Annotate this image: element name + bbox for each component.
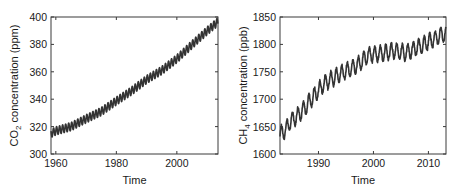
ch4-y-ticks: 160016501700175018001850 — [253, 11, 446, 160]
y-tick-label: 1600 — [253, 148, 277, 160]
x-tick-label: 2000 — [362, 157, 386, 169]
y-tick-label: 340 — [29, 93, 47, 105]
y-tick-label: 400 — [29, 11, 47, 23]
ch4-series-line — [280, 27, 446, 140]
y-tick-label: 360 — [29, 66, 47, 78]
x-tick-label: 1980 — [105, 157, 129, 169]
y-tick-label: 1800 — [253, 38, 277, 50]
ch4-x-axis-label: Time — [351, 174, 375, 186]
co2-x-axis-label: Time — [122, 174, 146, 186]
ch4-axes-frame — [280, 17, 446, 154]
y-tick-label: 1650 — [253, 121, 277, 133]
co2-series-line — [51, 19, 218, 137]
y-tick-label: 1750 — [253, 66, 277, 78]
figure: 300320340360380400 196019802000 Time CO2… — [0, 0, 455, 192]
co2-y-axis-label: CO2 concentration (ppm) — [8, 25, 23, 147]
co2-x-ticks: 196019802000 — [44, 17, 189, 169]
x-tick-label: 2010 — [417, 157, 441, 169]
x-tick-label: 1990 — [307, 157, 331, 169]
x-tick-label: 1960 — [44, 157, 68, 169]
y-tick-label: 1700 — [253, 93, 277, 105]
y-tick-label: 1850 — [253, 11, 277, 23]
y-tick-label: 380 — [29, 38, 47, 50]
y-tick-label: 320 — [29, 121, 47, 133]
x-tick-label: 2000 — [165, 157, 189, 169]
ch4-y-axis-label: CH4 concentration (ppb) — [237, 26, 252, 144]
ch4-x-ticks: 199020002010 — [307, 17, 440, 169]
co2-y-ticks: 300320340360380400 — [29, 11, 218, 160]
ch4-chart: 160016501700175018001850 199020002010 Ti… — [237, 11, 446, 186]
co2-chart: 300320340360380400 196019802000 Time CO2… — [8, 11, 218, 186]
